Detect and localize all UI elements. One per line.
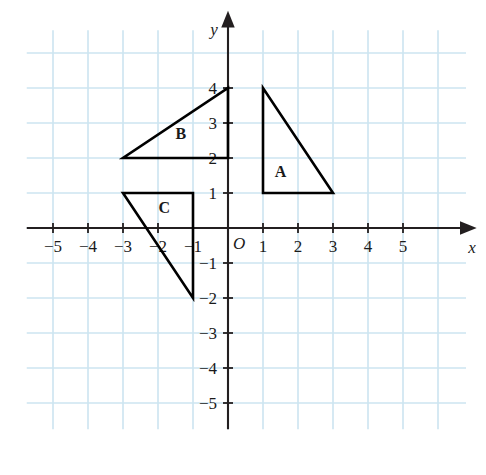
y-axis-tick-label: 1 [209,184,218,203]
x-axis-tick-label: 5 [399,237,408,256]
axis-names: xyO [208,20,476,258]
y-axis-tick-label: −3 [199,324,217,343]
shape-labels: ABC [159,125,287,217]
shape-label-c: C [159,199,171,216]
x-axis-tick-label: −3 [114,237,132,256]
axis-tick-labels: −5−4−3−2−1123454321−1−2−3−4−5 [44,79,407,413]
x-axis-tick-label: 4 [364,237,373,256]
shape-label-a: A [275,163,287,180]
y-axis-tick-label: 3 [209,114,218,133]
y-axis-tick-label: −2 [199,289,217,308]
x-axis-tick-label: 3 [329,237,338,256]
coordinate-grid-figure: −5−4−3−2−1123454321−1−2−3−4−5 xyO ABC [0,0,486,475]
x-axis-tick-label: −4 [79,237,98,256]
x-axis-name: x [467,238,476,257]
y-axis-name: y [208,20,218,39]
x-axis-tick-label: 1 [259,237,268,256]
grid-lines [27,30,466,429]
y-axis-tick-label: −1 [199,254,217,273]
shape-label-b: B [175,125,186,142]
y-axis-tick-label: −5 [199,394,217,413]
plot-canvas: −5−4−3−2−1123454321−1−2−3−4−5 xyO ABC [0,0,486,475]
x-axis-tick-label: −5 [44,237,62,256]
origin-label: O [233,234,245,253]
x-axis-tick-label: 2 [294,237,303,256]
y-axis-tick-label: −4 [199,359,218,378]
